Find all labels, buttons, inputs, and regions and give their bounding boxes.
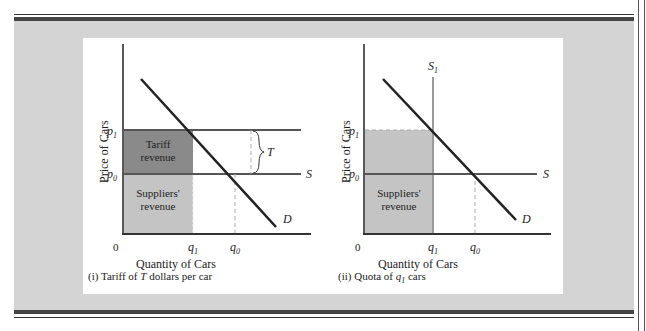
origin-label: 0 [113, 241, 119, 253]
caption-tariff: (i) Tariff of T dollars per car [88, 270, 212, 283]
tariff-revenue-label: Tariff [146, 138, 171, 150]
s1-label: S1 [428, 59, 438, 75]
t-label: T [267, 145, 275, 159]
tariff-chart: Price of Cars p1 p0 0 q1 q0 Quantity of … [88, 44, 312, 283]
tariff-revenue-label-2: revenue [141, 151, 176, 163]
q0-label: q0 [230, 240, 240, 256]
origin-label: 0 [355, 241, 361, 253]
p0-label: p0 [106, 167, 117, 183]
suppliers-revenue-label-2: revenue [382, 200, 417, 212]
q0-label: q0 [470, 240, 480, 256]
p1-label: p1 [106, 124, 117, 140]
suppliers-revenue-label: Suppliers' [136, 187, 180, 199]
p0-label: p0 [348, 167, 359, 183]
s-label: S [306, 167, 312, 181]
suppliers-revenue-label-2: revenue [141, 200, 176, 212]
caption-quota: (ii) Quota of q1 cars [338, 270, 426, 285]
s-label: S [543, 167, 549, 181]
d-label: D [282, 212, 292, 226]
suppliers-revenue-label: Suppliers' [377, 187, 421, 199]
t-brace-icon [253, 131, 264, 173]
q1-label: q1 [188, 240, 198, 256]
suppliers-revenue-region [365, 130, 433, 234]
x-axis-label: Quantity of Cars [378, 257, 458, 271]
quota-chart: Price of Cars p1 p0 0 q1 q0 Quantity of … [338, 44, 551, 285]
p1-label: p1 [348, 124, 359, 140]
q1-label: q1 [428, 240, 438, 256]
x-axis-label: Quantity of Cars [136, 257, 216, 271]
d-label: D [521, 212, 531, 226]
